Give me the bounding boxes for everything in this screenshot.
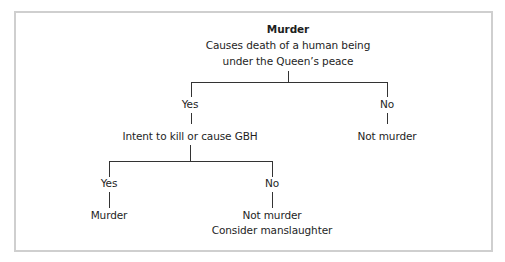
connector-no1-node bbox=[387, 113, 388, 124]
root-condition-line1: Causes death of a human being bbox=[206, 39, 371, 52]
connector-root-down bbox=[288, 71, 289, 82]
connector-level2-horizontal bbox=[109, 161, 273, 162]
yes-label-level1: Yes bbox=[182, 98, 199, 111]
connector-yes2-node bbox=[109, 192, 110, 208]
yes-label-level2: Yes bbox=[101, 177, 118, 190]
root-title: Murder bbox=[267, 23, 309, 36]
root-condition-line2: under the Queen’s peace bbox=[223, 55, 354, 68]
not-murder-outcome-line1: Not murder bbox=[242, 209, 301, 222]
connector-intent-down bbox=[190, 145, 191, 161]
connector-yes1-down bbox=[191, 82, 192, 97]
consider-manslaughter-line2: Consider manslaughter bbox=[212, 224, 333, 237]
murder-outcome-node: Murder bbox=[91, 209, 128, 222]
connector-no1-down bbox=[387, 82, 388, 97]
not-murder-node-level1: Not murder bbox=[357, 130, 416, 143]
connector-level1-horizontal bbox=[191, 82, 388, 83]
connector-yes1-node bbox=[191, 113, 192, 124]
no-label-level2: No bbox=[265, 177, 279, 190]
connector-yes2-down bbox=[109, 161, 110, 177]
connector-no2-node bbox=[272, 192, 273, 208]
connector-no2-down bbox=[272, 161, 273, 177]
intent-node: Intent to kill or cause GBH bbox=[122, 130, 257, 143]
no-label-level1: No bbox=[380, 98, 394, 111]
